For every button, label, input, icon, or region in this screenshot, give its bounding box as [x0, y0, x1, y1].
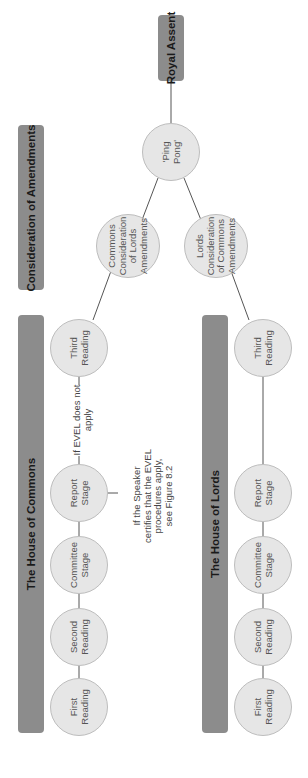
- commons-third-reading-node: Third Reading: [50, 319, 108, 377]
- commons-first-reading-label: First Reading: [69, 689, 90, 724]
- house-of-commons-label: The House of Commons: [25, 458, 37, 590]
- ping-pong-node: 'Ping Pong': [142, 123, 200, 181]
- ping-pong-label: 'Ping Pong': [161, 140, 182, 164]
- consideration-of-amendments-box: Consideration of Amendments: [18, 125, 44, 290]
- lords-third-reading-label: Third Reading: [253, 330, 274, 365]
- commons-consideration-node: Commons Consideration of Lords Amendment…: [96, 214, 160, 278]
- lords-consideration-label: Lords Consideration of Commons Amendment…: [195, 217, 237, 276]
- house-of-lords-label: The House of Lords: [209, 470, 221, 578]
- evel-not-apply-note: If EVEL does not apply: [72, 385, 93, 456]
- lords-second-reading-node: Second Reading: [234, 608, 292, 666]
- lords-report-stage-label: Report Stage: [253, 479, 274, 508]
- commons-report-stage-label: Report Stage: [69, 479, 90, 508]
- commons-second-reading-label: Second Reading: [69, 619, 90, 654]
- lords-first-reading-node: First Reading: [234, 678, 292, 736]
- lords-committee-stage-node: Committee Stage: [234, 536, 292, 594]
- lords-consideration-node: Lords Consideration of Commons Amendment…: [184, 214, 248, 278]
- lords-committee-stage-label: Committee Stage: [253, 542, 274, 588]
- lords-second-reading-label: Second Reading: [253, 619, 274, 654]
- commons-second-reading-node: Second Reading: [50, 608, 108, 666]
- house-of-lords-box: The House of Lords: [202, 315, 228, 733]
- consideration-of-amendments-label: Consideration of Amendments: [25, 124, 37, 291]
- commons-committee-stage-label: Committee Stage: [69, 542, 90, 588]
- lords-third-reading-node: Third Reading: [234, 319, 292, 377]
- royal-assent-box: Royal Assent: [158, 15, 184, 81]
- commons-report-stage-node: Report Stage: [50, 464, 108, 522]
- commons-committee-stage-node: Committee Stage: [50, 536, 108, 594]
- house-of-commons-box: The House of Commons: [18, 315, 44, 733]
- evel-apply-note: If the Speaker certifies that the EVEL p…: [132, 449, 174, 543]
- commons-consideration-label: Commons Consideration of Lords Amendment…: [107, 217, 149, 276]
- commons-third-reading-label: Third Reading: [69, 330, 90, 365]
- commons-first-reading-node: First Reading: [50, 678, 108, 736]
- lords-first-reading-label: First Reading: [253, 689, 274, 724]
- royal-assent-label: Royal Assent: [165, 12, 177, 84]
- lords-report-stage-node: Report Stage: [234, 464, 292, 522]
